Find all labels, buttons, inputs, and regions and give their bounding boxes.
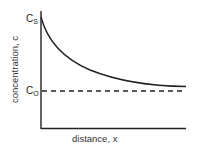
co-sub: O [33,90,38,97]
cs-label: CS [26,14,38,24]
cs-sub: S [33,18,38,25]
co-label: CO [26,86,39,96]
concentration-curve [41,17,186,87]
x-axis-label: distance, x [72,133,117,144]
y-axis-label: concentration, c [9,20,20,120]
